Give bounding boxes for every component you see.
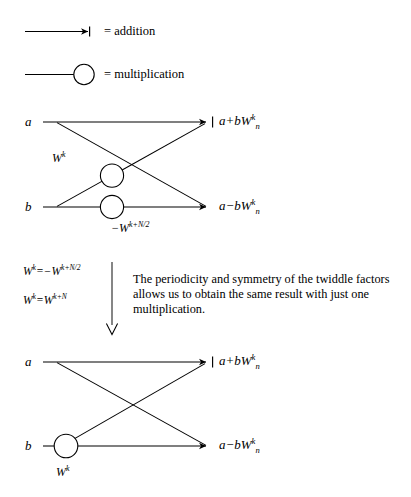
legend-label-addition: = addition — [104, 25, 155, 38]
output-label-diff-bottom: a−bWkn — [219, 438, 260, 451]
diagram-canvas: = addition = multiplication a b a+bWkn a… — [0, 0, 411, 497]
input-label-b-bottom: b — [25, 439, 32, 452]
twiddle-label-top-1: Wk — [52, 152, 66, 164]
input-label-b-top: b — [25, 200, 32, 213]
edge-mult-to-top-output — [75, 364, 205, 439]
input-label-a-bottom: a — [25, 355, 32, 368]
input-label-a-top: a — [25, 115, 32, 128]
butterfly-top-graph — [43, 117, 213, 219]
output-label-sum-bottom: a+bWkn — [219, 354, 260, 367]
output-label-diff-top: a−bWkn — [219, 199, 260, 212]
twiddle-label-bottom-1: Wk — [56, 466, 70, 478]
legend-label-multiplication: = multiplication — [104, 68, 184, 81]
edge-b-into-mult1 — [57, 180, 104, 206]
edge-mult1-to-top-output — [121, 124, 205, 171]
twiddle-note-text: The periodicity and symmetry of the twid… — [133, 272, 398, 317]
diagram-vector-layer — [0, 0, 411, 497]
multiplier-node-top-1 — [100, 164, 123, 187]
edge-a-to-bottom-output — [57, 363, 206, 446]
arrow-down-icon — [106, 324, 117, 335]
multiplier-node-bottom-1 — [54, 434, 78, 458]
circle-outline-icon — [74, 64, 94, 84]
multiplier-node-top-2 — [100, 195, 123, 218]
middle-divider — [106, 262, 117, 335]
equation-symmetry: Wk=−Wk+N/2 — [23, 266, 81, 278]
equation-periodicity: Wk=Wk+N — [23, 295, 67, 307]
legend-addition-symbol — [25, 26, 90, 36]
butterfly-bottom-graph — [43, 357, 213, 458]
legend-multiplication-symbol — [25, 64, 94, 84]
output-label-sum-top: a+bWkn — [219, 114, 260, 127]
twiddle-label-top-2: −Wk+N/2 — [111, 222, 149, 234]
